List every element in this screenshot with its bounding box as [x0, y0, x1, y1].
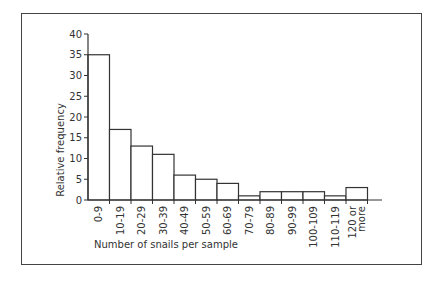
bar-110-119 [325, 196, 347, 200]
x-tick-label: 50-59 [201, 206, 212, 235]
x-tick-label: 20-29 [136, 206, 147, 235]
x-tick-label: 80-89 [265, 206, 276, 235]
bar-0-9 [88, 55, 110, 200]
y-tick-label: 5 [76, 174, 82, 185]
y-tick-label: 40 [69, 29, 82, 40]
y-tick-label: 20 [69, 112, 82, 123]
x-tick-label: 100-109 [308, 206, 319, 248]
y-tick-label: 15 [69, 132, 82, 143]
bar-40-49 [174, 175, 196, 200]
bar-20-29 [131, 146, 153, 200]
bar-100-109 [303, 192, 325, 200]
x-tick-label: 70-79 [244, 206, 255, 235]
y-tick-label: 10 [69, 153, 82, 164]
x-tick-label: 110-119 [330, 206, 341, 248]
x-tick-label: 30-39 [158, 206, 169, 235]
bar-60-69 [217, 183, 239, 200]
y-axis-label: Relative frequency [55, 103, 66, 197]
y-tick-label: 30 [69, 70, 82, 81]
x-tick-label: 40-49 [179, 206, 190, 235]
bar-10-19 [110, 129, 132, 200]
y-tick-label: 25 [69, 91, 82, 102]
x-tick-label: 60-69 [222, 206, 233, 235]
bar-80-89 [260, 192, 282, 200]
bar-50-59 [196, 179, 218, 200]
histogram-chart: 0510152025303540 0-910-1920-2930-3940-49… [0, 0, 435, 281]
bar-90-99 [282, 192, 304, 200]
bar-120-or-more [346, 188, 368, 200]
bar-30-39 [153, 154, 175, 200]
x-axis-label: Number of snails per sample [94, 239, 238, 250]
x-tick-label: 10-19 [115, 206, 126, 235]
bar-70-79 [239, 196, 261, 200]
y-ticks-group: 0510152025303540 [69, 29, 88, 206]
x-tick-label: 0-9 [93, 206, 104, 222]
x-tick-label: 90-99 [287, 206, 298, 235]
x-tick-label: more [356, 206, 367, 232]
y-tick-label: 0 [76, 195, 82, 206]
bars-group [88, 55, 368, 200]
y-tick-label: 35 [69, 49, 82, 60]
